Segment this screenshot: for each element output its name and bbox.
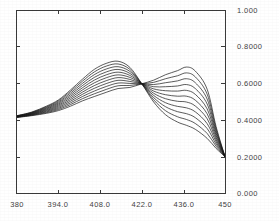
x-tick-394 [58,190,59,194]
x-tick-top-394 [58,11,59,14]
chart-figure: 1.000 0.8000 0.6000 0.4000 0.2000 0.000 … [0,0,279,221]
x-axis-label-436: 436.0 [168,201,200,209]
curve-series-group [17,11,225,193]
x-tick-top-408 [100,11,101,14]
y-tick-0600 [221,83,225,84]
y-axis-label-0000: 0.000 [237,190,258,198]
x-axis-label-450: 450 [212,201,238,209]
x-tick-450 [225,190,226,194]
x-tick-top-422 [142,11,143,14]
y-tick-left-0600 [17,83,20,84]
x-tick-408 [100,190,101,194]
curve-line [17,80,225,156]
y-tick-0200 [221,157,225,158]
y-axis-label-0800: 0.8000 [237,43,262,51]
x-tick-422 [142,190,143,194]
x-axis-label-394: 394.0 [42,201,74,209]
y-axis-label-0600: 0.6000 [237,80,262,88]
y-tick-left-0800 [17,46,20,47]
y-tick-1000 [221,10,225,11]
plot-area [16,10,226,194]
y-tick-left-0200 [17,157,20,158]
y-tick-0400 [221,120,225,121]
x-tick-436 [184,190,185,194]
y-axis-label-0200: 0.2000 [237,154,262,162]
y-tick-0800 [221,46,225,47]
x-tick-top-436 [184,11,185,14]
x-tick-380 [16,190,17,194]
x-axis-label-408: 408.0 [84,201,116,209]
x-axis-label-380: 380 [4,201,30,209]
y-axis-label-0400: 0.4000 [237,117,262,125]
x-axis-label-422: 422.0 [126,201,158,209]
curve-line [17,73,225,157]
curve-line [17,72,225,156]
curve-line [17,79,225,157]
y-axis-label-1000: 1.000 [237,7,258,15]
y-tick-left-0400 [17,120,20,121]
